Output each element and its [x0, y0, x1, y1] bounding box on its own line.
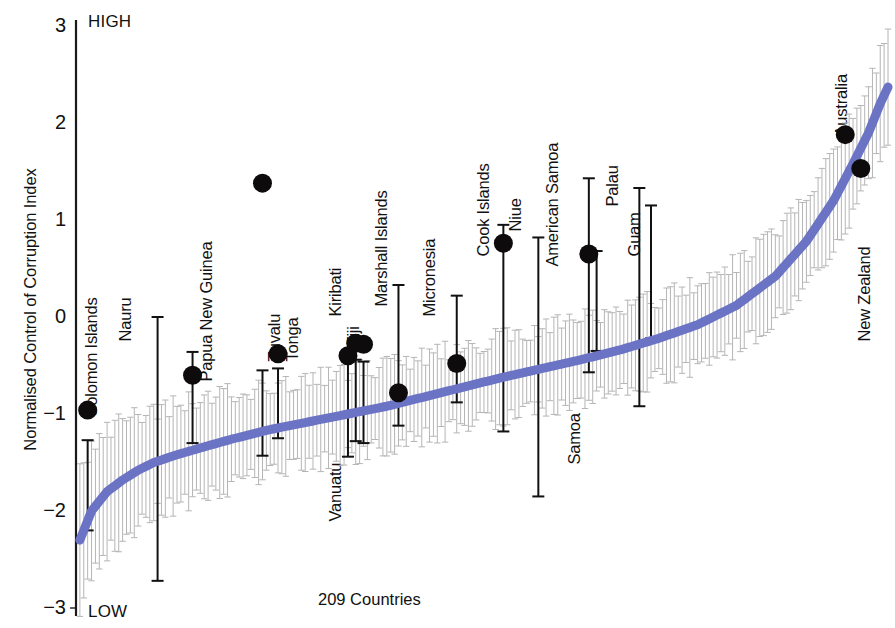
- ranked-estimate-line: [80, 87, 888, 540]
- marker-american-samoa: [579, 244, 598, 263]
- marker-cook-islands: [494, 234, 513, 253]
- marker-australia: [836, 125, 855, 144]
- background-errorbars: [77, 29, 892, 616]
- plot-area: [0, 0, 895, 628]
- marker-micronesia: [447, 354, 466, 373]
- marker-marshall-islands: [389, 383, 408, 402]
- marker-papua-new-guinea: [183, 366, 202, 385]
- marker-fiji: [354, 335, 373, 354]
- corruption-index-figure: Normalised Control of Corruption Index 2…: [0, 0, 895, 628]
- highlight-errorbars: [82, 178, 657, 581]
- marker-solomon-islands: [78, 401, 97, 420]
- marker-new-zealand: [851, 159, 870, 178]
- marker-tonga: [269, 344, 288, 363]
- marker-tuvalu: [253, 174, 272, 193]
- highlight-markers: [78, 125, 870, 419]
